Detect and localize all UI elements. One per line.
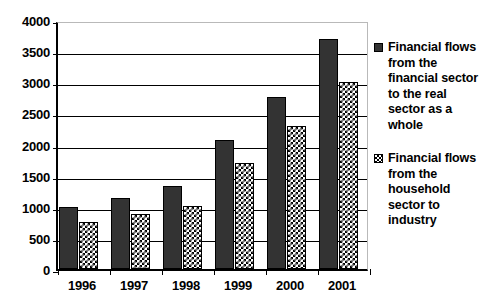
x-axis-tick-label-2000: 2000 — [264, 278, 316, 293]
x-axis-tick-mark — [58, 269, 59, 275]
bar — [111, 198, 130, 269]
x-axis-tick-mark — [214, 269, 215, 275]
bar — [163, 186, 182, 269]
bar — [235, 163, 254, 269]
y-axis-tick-label: 4000 — [0, 17, 50, 27]
bar — [215, 140, 234, 269]
bar-group — [267, 23, 306, 269]
x-axis-tick-label-1998: 1998 — [160, 278, 212, 293]
bar — [131, 214, 150, 269]
x-axis-tick-mark — [318, 269, 319, 275]
plot-area — [56, 22, 368, 271]
checkerboard-square-swatch — [374, 154, 383, 163]
bar-chart-figure: 05001000150020002500300035004000 1996199… — [0, 0, 489, 306]
bar-group — [111, 23, 150, 269]
x-axis-tick-label-1997: 1997 — [108, 278, 160, 293]
bar — [59, 207, 78, 269]
y-axis-tick-label: 0 — [0, 266, 50, 276]
legend-label: Financial flows from the household secto… — [388, 151, 486, 229]
chart-legend: Financial flows from the financial secto… — [374, 40, 486, 247]
legend-label: Financial flows from the financial secto… — [388, 40, 486, 133]
bar — [267, 97, 286, 269]
legend-entry: Financial flows from the financial secto… — [374, 40, 486, 133]
bar — [339, 82, 358, 269]
bar-group — [319, 23, 358, 269]
x-axis-tick-mark — [162, 269, 163, 275]
y-axis-tick-label: 2500 — [0, 110, 50, 120]
x-axis-tick-label-1999: 1999 — [212, 278, 264, 293]
solid-dark-square-swatch — [374, 43, 383, 52]
bar-group — [163, 23, 202, 269]
y-axis-tick-label: 3000 — [0, 79, 50, 89]
bar-group — [215, 23, 254, 269]
x-axis-tick-mark — [370, 269, 371, 275]
y-axis-tick-label: 3500 — [0, 48, 50, 58]
y-axis-tick-labels: 05001000150020002500300035004000 — [0, 0, 50, 306]
x-axis-tick-mark — [110, 269, 111, 275]
x-axis-tick-mark — [266, 269, 267, 275]
x-axis-tick-label-2001: 2001 — [316, 278, 368, 293]
y-axis-tick-label: 500 — [0, 235, 50, 245]
bar — [79, 222, 98, 269]
x-axis-tick-labels: 199619971998199920002001 — [56, 278, 368, 300]
y-axis-tick-label: 2000 — [0, 142, 50, 152]
bars-layer — [58, 23, 367, 269]
y-axis-tick-label: 1500 — [0, 173, 50, 183]
bar — [183, 206, 202, 269]
bar — [319, 39, 338, 269]
y-axis-tick-label: 1000 — [0, 204, 50, 214]
legend-entry: Financial flows from the household secto… — [374, 151, 486, 229]
x-axis-tick-label-1996: 1996 — [56, 278, 108, 293]
bar — [287, 126, 306, 269]
bar-group — [59, 23, 98, 269]
